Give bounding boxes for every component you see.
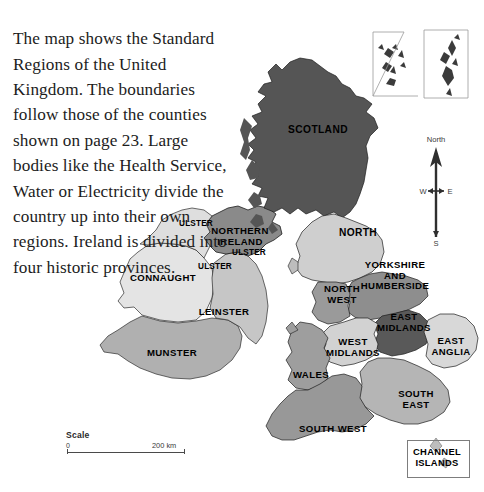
map-caption: The map shows the Standard Regions of th… — [13, 26, 231, 280]
region-shape-north-west — [312, 282, 350, 324]
inset-label-channel-islands: CHANNEL ISLANDS — [413, 446, 461, 468]
compass-label-south: S — [433, 239, 438, 248]
map-scale-bar: Scale 0 200 km — [66, 430, 196, 460]
compass-label-east: E — [447, 187, 452, 196]
scale-max-label: 200 km — [152, 441, 176, 450]
region-shape-scotland — [248, 58, 378, 218]
scale-title: Scale — [66, 430, 89, 440]
island-shape-outer-hebrides — [240, 118, 252, 160]
compass-label-west: W — [419, 187, 426, 196]
scale-min-label: 0 — [66, 442, 70, 449]
region-shape-east-anglia — [424, 314, 478, 368]
inset-orkney-islands — [378, 44, 406, 86]
island-shape-isle-of-man — [288, 258, 298, 274]
compass-arrow-icon — [405, 133, 467, 248]
compass-rose: North W E S — [405, 133, 467, 248]
compass-label-north: North — [427, 135, 446, 144]
map-figure: The map shows the Standard Regions of th… — [0, 0, 484, 492]
region-shape-east-midlands — [374, 310, 430, 356]
region-shape-munster — [100, 316, 242, 379]
inset-shetland-islands — [440, 34, 460, 96]
scale-line — [67, 452, 185, 453]
region-shape-north — [296, 214, 384, 284]
region-shape-west-midlands — [322, 318, 378, 366]
region-shape-south-west — [266, 374, 374, 440]
